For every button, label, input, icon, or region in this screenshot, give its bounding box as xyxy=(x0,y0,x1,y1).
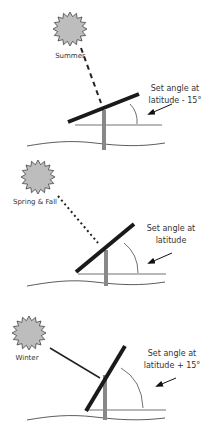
season-label-winter: Winter xyxy=(15,354,38,362)
caption-line1: Set angle at xyxy=(148,349,196,358)
sun-icon-winter xyxy=(12,316,46,350)
caption-line2: latitude xyxy=(156,236,187,245)
mount-pole xyxy=(102,110,106,150)
sun-icon-summer xyxy=(53,12,87,46)
tilt-angle-arc xyxy=(124,243,138,273)
tilt-angle-arc xyxy=(121,368,143,408)
ground-line xyxy=(27,142,165,146)
arrow-icon xyxy=(157,378,176,386)
sun-ray-solid xyxy=(50,348,100,378)
ground-line xyxy=(27,416,165,420)
ground-line xyxy=(27,281,165,286)
caption-line1: Set angle at xyxy=(147,224,195,233)
sun-icon-spring-fall xyxy=(21,160,55,194)
season-label-spring-fall: Spring & Fall xyxy=(13,198,57,206)
arrow-icon xyxy=(149,104,172,114)
caption-line1: Set angle at xyxy=(151,84,199,93)
caption-line2: latitude + 15° xyxy=(144,361,201,370)
caption-line2: latitude - 15° xyxy=(149,96,202,105)
mount-pole xyxy=(104,250,108,286)
spring-fall-panel-group: Spring & Fall Set angle at latitude xyxy=(13,160,195,286)
winter-panel-group: Winter Set angle at latitude + 15° xyxy=(12,316,200,420)
sun-ray-dotted xyxy=(58,196,98,243)
summer-panel-group: Summer Set angle at latitude - 15° xyxy=(27,12,201,150)
tilt-angle-arc xyxy=(130,104,137,124)
arrow-icon xyxy=(149,253,172,263)
solar-tilt-diagram: Summer Set angle at latitude - 15° Sprin… xyxy=(0,0,213,446)
season-label-summer: Summer xyxy=(55,52,85,60)
